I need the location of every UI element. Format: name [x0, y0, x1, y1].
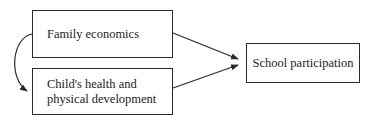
node-label: Child's health and physical development [33, 77, 156, 107]
arrow-family-to-school [173, 33, 238, 59]
node-school-participation: School participation [246, 43, 360, 83]
node-label: School participation [247, 56, 359, 71]
node-label: Family economics [33, 27, 139, 42]
curved-arrow-family-to-health [15, 34, 32, 91]
arrow-health-to-school [173, 65, 238, 88]
node-child-health: Child's health and physical development [32, 68, 173, 115]
node-family-economics: Family economics [32, 10, 173, 58]
